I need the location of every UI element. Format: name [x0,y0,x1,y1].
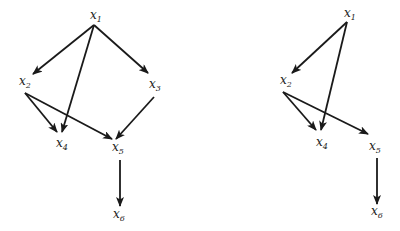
edge-x1-x3 [94,25,148,73]
edge-x2-x5 [25,93,112,139]
node-x1: x1 [90,8,102,24]
right-graph: x1x2x4x5x6 [280,6,383,220]
edge-x1-x2 [33,25,94,74]
node-x2: x2 [280,73,292,89]
dag-canvas: x1x2x3x4x5x6 x1x2x4x5x6 [0,0,400,231]
node-x3: x3 [149,77,161,93]
edge-x2-x4 [283,92,316,130]
edge-x1-x2 [292,22,347,73]
node-x4: x4 [316,135,328,151]
edge-x3-x5 [116,97,154,139]
node-x5: x5 [369,139,381,155]
edge-x1-x4 [321,22,347,130]
edge-x2-x4 [25,93,57,132]
node-x6: x6 [371,204,383,220]
node-x1: x1 [344,6,356,22]
node-x5: x5 [112,140,124,156]
edge-x2-x5 [283,92,368,134]
node-x6: x6 [113,207,125,223]
node-x4: x4 [56,136,68,152]
node-x2: x2 [19,74,31,90]
left-graph: x1x2x3x4x5x6 [19,8,161,223]
